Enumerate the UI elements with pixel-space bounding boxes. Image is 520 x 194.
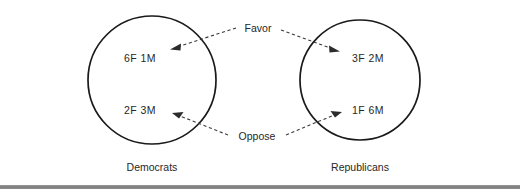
group-circle-republicans xyxy=(300,20,420,140)
caption-democrats: Democrats xyxy=(127,161,178,173)
cell-republicans-oppose: 1F 6M xyxy=(352,104,384,116)
figure-container: 6F 1M 2F 3M 3F 2M 1F 6M Favor Oppose Dem… xyxy=(0,0,520,194)
relation-label-oppose: Oppose xyxy=(239,130,276,142)
relation-label-favor: Favor xyxy=(245,22,272,34)
venn-relationship-diagram: 6F 1M 2F 3M 3F 2M 1F 6M Favor Oppose Dem… xyxy=(0,0,520,194)
group-circle-democrats xyxy=(88,16,216,144)
cell-democrats-favor: 6F 1M xyxy=(124,52,156,64)
footer-divider-rule xyxy=(0,185,520,189)
cell-democrats-oppose: 2F 3M xyxy=(124,104,156,116)
caption-republicans: Republicans xyxy=(331,161,389,173)
cell-republicans-favor: 3F 2M xyxy=(352,52,384,64)
